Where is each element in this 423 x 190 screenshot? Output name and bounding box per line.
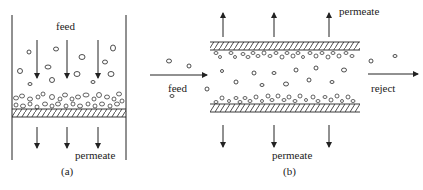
filtration-diagram: feed (0, 0, 423, 190)
feed-label-b: feed (168, 82, 187, 94)
membrane-a (12, 109, 126, 117)
reject-label-b: reject (371, 82, 395, 94)
permeate-label-a: permeate (75, 149, 115, 161)
caption-b: (b) (283, 165, 296, 178)
permeate-top-label-b: permeate (339, 5, 379, 17)
panel-b-cross-flow: permeate (150, 5, 418, 178)
cake-layer-top-b (214, 51, 354, 59)
feed-arrows-a (37, 40, 98, 78)
permeate-arrows-down-b (223, 125, 329, 147)
permeate-bottom-label-b: permeate (272, 149, 312, 161)
caption-a: (a) (61, 165, 74, 178)
membrane-top-b (210, 42, 360, 50)
feed-label-a: feed (56, 20, 75, 32)
permeate-arrows-up-b (223, 13, 329, 37)
panel-a-dead-end: feed (12, 15, 126, 178)
membrane-bottom-b (210, 104, 360, 112)
permeate-arrows-a (37, 127, 98, 148)
cake-layer-bottom-b (214, 94, 355, 104)
cake-layer-a (14, 92, 125, 109)
particles-b (167, 55, 398, 98)
